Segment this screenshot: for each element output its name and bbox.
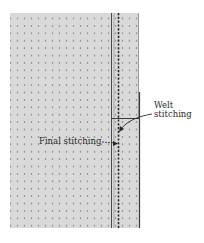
- welt-stitching-label: Welt stitching: [154, 101, 192, 119]
- fabric-panel: [10, 13, 139, 228]
- final-stitching-label: Final stitching: [39, 137, 101, 146]
- fabric-illustration: [0, 0, 204, 243]
- welt-label-line2: stitching: [154, 110, 192, 119]
